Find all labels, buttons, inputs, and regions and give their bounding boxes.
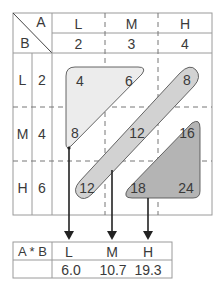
bottom-table-header-label: A * B (13, 245, 52, 259)
cell-h-m: 18 (128, 181, 148, 195)
bottom-value-l: 6.0 (58, 263, 84, 277)
col-header-value-l: 2 (52, 37, 105, 51)
row-header-value-m: 4 (32, 127, 52, 141)
cell-m-h: 16 (177, 126, 197, 140)
bottom-col-l: L (58, 245, 80, 259)
cell-h-l: 12 (77, 181, 97, 195)
cell-m-m: 12 (127, 126, 147, 140)
row-header-level-m: M (13, 127, 32, 141)
arrow-to-M (107, 170, 117, 240)
bottom-value-h: 19.3 (134, 263, 162, 277)
col-header-level-h: H (158, 17, 212, 31)
cell-l-h: 8 (179, 73, 195, 87)
bottom-col-h: H (137, 245, 159, 259)
bottom-col-m: M (101, 245, 123, 259)
col-header-value-m: 3 (105, 37, 158, 51)
arrow-to-H (143, 198, 153, 240)
corner-label-b: B (18, 36, 32, 50)
corner-label-a: A (34, 15, 48, 29)
arrow-to-L (64, 146, 74, 240)
cell-l-l: 4 (72, 74, 88, 88)
row-header-level-h: H (13, 181, 32, 195)
row-header-value-l: 2 (32, 73, 52, 87)
cell-h-h: 24 (176, 181, 196, 195)
col-header-level-l: L (52, 17, 105, 31)
col-header-value-h: 4 (158, 37, 212, 51)
cell-m-l: 8 (67, 126, 83, 140)
row-header-value-h: 6 (32, 181, 52, 195)
row-header-level-l: L (13, 73, 32, 87)
cell-l-m: 6 (121, 74, 137, 88)
col-header-level-m: M (105, 17, 158, 31)
bottom-value-m: 10.7 (99, 263, 127, 277)
